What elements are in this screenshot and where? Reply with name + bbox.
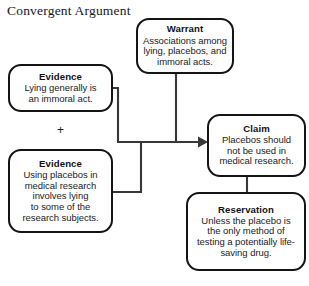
node-warrant-title: Warrant [167,24,204,35]
node-evidence-2: Evidence Using placebos in medical resea… [8,149,113,233]
node-evidence-1-title: Evidence [39,72,82,83]
node-warrant-body: Associations among lying, placebos, and … [143,36,227,68]
node-claim-title: Claim [243,124,270,135]
node-reservation-title: Reservation [218,205,274,216]
connector-evidence-1 [113,88,118,142]
node-claim: Claim Placebos should not be used in med… [207,114,306,177]
connector-evidence-2 [113,143,141,192]
node-reservation-body: Unless the placebo is the only method of… [197,216,295,259]
node-warrant: Warrant Associations among lying, placeb… [136,18,234,74]
node-evidence-1: Evidence Lying generally is an immoral a… [8,64,113,112]
node-claim-body: Placebos should not be used in medical r… [219,135,293,167]
plus-operator: + [8,124,113,136]
node-evidence-1-body: Lying generally is an immoral act. [24,83,96,104]
diagram-canvas: Convergent Argument Warrant Associations… [0,0,309,286]
node-evidence-2-title: Evidence [39,159,82,170]
node-reservation: Reservation Unless the placebo is the on… [186,192,306,271]
node-evidence-2-body: Using placebos in medical research invol… [22,170,98,223]
